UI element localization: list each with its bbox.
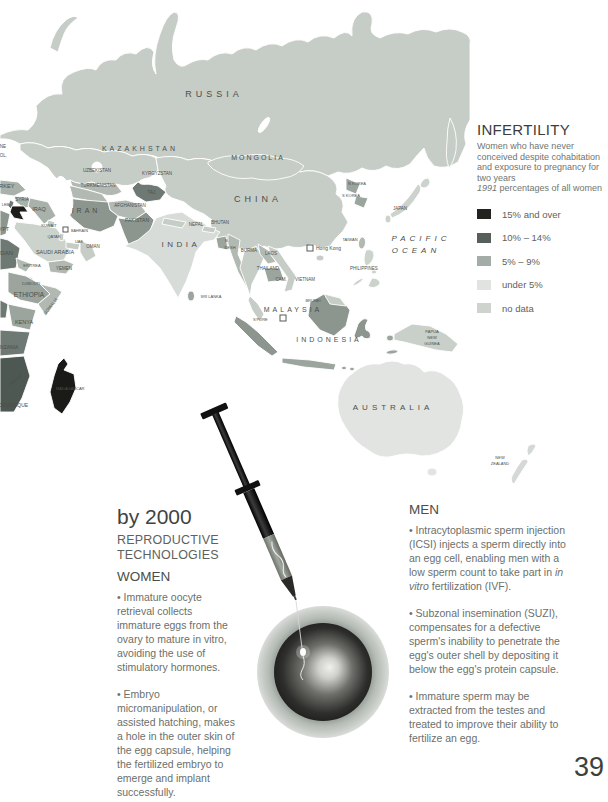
map-label-uzbekistan: UZBEKISTAN xyxy=(83,168,111,173)
map-label-eritrea: ERITREA xyxy=(23,263,41,268)
map-label-kuwait: KUWAIT xyxy=(41,223,57,228)
map-label-oman: OMAN xyxy=(86,244,100,249)
island-sumatra xyxy=(234,316,278,356)
island-novaya-zemlya xyxy=(50,16,78,52)
legend: INFERTILITY Women who have never conceiv… xyxy=(477,121,608,320)
island-hainan xyxy=(316,255,324,261)
map-label-syria: SYRIA xyxy=(15,197,29,202)
map-label-china: CHINA xyxy=(234,194,282,204)
legend-title: INFERTILITY xyxy=(477,121,608,138)
legend-item-label: 5% – 9% xyxy=(502,256,540,267)
map-label-mongolia: MONGOLIA xyxy=(231,154,285,161)
map-label-tanzania: TANZANIA xyxy=(0,344,19,350)
legend-items: 15% and over10% – 14%5% – 9%under 5%no d… xyxy=(477,203,608,321)
legend-swatch-4 xyxy=(477,303,491,313)
map-label-philippines: PHILIPPINES xyxy=(350,266,378,271)
women-title: WOMEN xyxy=(117,570,238,584)
island-mindanao-philippines xyxy=(368,278,380,288)
men-bullet-3: • Immature sperm may be extracted from t… xyxy=(409,689,569,745)
map-label-kyrgyzstan: KYRGYZSTAN xyxy=(142,171,172,176)
heading-by-2000: by 2000 xyxy=(117,505,219,529)
men-bullet-1: • Intracytoplasmic sperm injection (ICSI… xyxy=(409,523,569,593)
legend-swatch-2 xyxy=(477,256,491,266)
legend-item-4: no data xyxy=(477,297,608,321)
island-tasmania xyxy=(427,468,437,476)
country-jordan-israel xyxy=(10,206,28,220)
island-luzon-philippines xyxy=(364,250,374,266)
map-label-new: NEW xyxy=(495,455,505,460)
map-label-kazakhstan: KAZAKHSTAN xyxy=(102,145,178,152)
map-label-turkey: TURKEY xyxy=(0,183,15,189)
legend-item-label: under 5% xyxy=(502,279,543,290)
map-label-s-pore: S'PORE xyxy=(253,317,268,322)
legend-item-label: 10% – 14% xyxy=(502,232,551,243)
map-label-ukraine: UKRAINE xyxy=(0,144,6,149)
country-sri-lanka xyxy=(188,291,195,301)
map-label-qatar: QATAR xyxy=(47,234,60,239)
map-label-guinea: GUINEA xyxy=(424,341,440,346)
heading-technologies: TECHNOLOGIES xyxy=(117,548,219,563)
map-label-sri-lanka: SRI LANKA xyxy=(201,294,222,299)
map-label-s-korea: S KOREA xyxy=(342,193,360,198)
map-label-egypt: EGYPT xyxy=(0,226,9,232)
legend-item-2: 5% – 9% xyxy=(477,250,608,274)
legend-note: 1991 percentages of all women xyxy=(477,183,608,194)
map-label-australia: AUSTRALIA xyxy=(353,403,433,412)
section-heading: by 2000 REPRODUCTIVE TECHNOLOGIES xyxy=(117,505,219,562)
country-egypt xyxy=(0,210,10,236)
map-label-n-korea: N KOREA xyxy=(348,181,366,186)
map-label-desh: DESH xyxy=(224,245,235,250)
island-taiwan xyxy=(358,237,367,250)
map-label-mol-: MOL. xyxy=(0,153,7,158)
map-label-yemen: YEMEN xyxy=(56,266,72,271)
map-label-russia: RUSSIA xyxy=(185,89,243,99)
map-label-zealand: ZEALAND xyxy=(491,461,510,466)
map-label-madagascar: MADAGASCAR xyxy=(56,386,85,391)
map-label-turkmenistan: TURKMENISTAN xyxy=(80,183,115,188)
map-label-ethiopia: ETHIOPIA xyxy=(14,291,45,298)
country-kenya xyxy=(8,304,36,330)
map-label-papua: PAPUA xyxy=(425,329,439,334)
country-japan-kyushu xyxy=(385,215,391,223)
legend-item-label: 15% and over xyxy=(502,209,561,220)
map-label-saudi-arabia: SAUDI ARABIA xyxy=(36,249,75,255)
map-label-kenya: KENYA xyxy=(15,319,34,325)
map-label-indonesia: INDONESIA xyxy=(296,336,362,343)
map-label-bahrain: BAHRAIN xyxy=(71,229,88,233)
map-label-ocean: OCEAN xyxy=(392,246,440,255)
map-label-japan: JAPAN xyxy=(393,206,407,211)
legend-item-label: no data xyxy=(502,303,534,314)
island-palawan xyxy=(352,277,364,286)
legend-item-0: 15% and over xyxy=(477,203,608,227)
women-bullet-2: • Embryo micromanipulation, or assisted … xyxy=(117,687,238,799)
page-number: 39 xyxy=(574,752,604,783)
legend-item-3: under 5% xyxy=(477,273,608,297)
map-label-afghanistan: AFGHANISTAN xyxy=(114,203,146,208)
country-japan-hokkaido xyxy=(420,178,430,188)
map-label-vietnam: VIETNAM xyxy=(295,277,315,282)
map-label-leb-: LEB. xyxy=(2,202,11,207)
hong-kong-marker xyxy=(307,245,313,251)
singapore-marker xyxy=(280,315,286,321)
map-label-uae: UAE xyxy=(75,239,84,244)
island-seram xyxy=(386,349,398,355)
country-japan-honshu xyxy=(390,184,421,218)
map-label-djibouti: DJIBOUTI xyxy=(22,281,40,286)
map-label-pakistan: PAKISTAN xyxy=(125,217,149,223)
island-lombok xyxy=(350,367,355,371)
heading-reproductive: REPRODUCTIVE xyxy=(117,533,219,548)
map-label-iran: IRAN xyxy=(72,207,101,214)
men-bullet-2: • Subzonal insemination (SUZI), compensa… xyxy=(409,606,569,676)
map-label-iraq: IRAQ xyxy=(32,206,46,212)
map-label-brunei: BRUNEI xyxy=(305,298,320,303)
country-tanzania xyxy=(0,330,30,356)
map-label-bhutan: BHUTAN xyxy=(211,220,229,225)
map-label-laos: LAOS xyxy=(265,251,277,256)
map-label-sudan: SUDAN xyxy=(0,250,13,256)
map-label-cam-: CAM. xyxy=(275,277,286,282)
legend-item-1: 10% – 14% xyxy=(477,226,608,250)
map-label-india: INDIA xyxy=(162,240,201,249)
map-label-nepal: NEPAL xyxy=(189,222,204,227)
map-label-new: NEW xyxy=(427,335,437,340)
